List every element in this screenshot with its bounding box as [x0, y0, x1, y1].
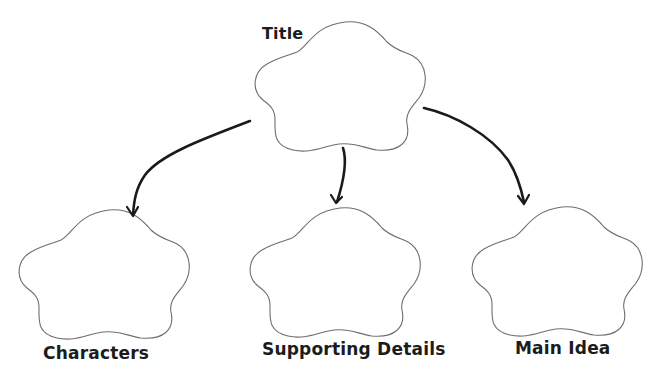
label-title: Title	[262, 26, 303, 42]
label-supporting-details: Supporting Details	[262, 341, 446, 358]
cloud-main-idea	[472, 207, 642, 336]
cloud-characters	[19, 210, 189, 339]
label-main-idea: Main Idea	[515, 340, 611, 357]
arrow-title-to-main-idea	[424, 108, 529, 204]
organizer-diagram	[0, 0, 661, 379]
label-characters: Characters	[43, 345, 149, 362]
cloud-supporting-details	[250, 208, 420, 337]
arrow-title-to-supporting-details	[331, 148, 345, 203]
arrow-title-to-characters	[127, 121, 250, 216]
